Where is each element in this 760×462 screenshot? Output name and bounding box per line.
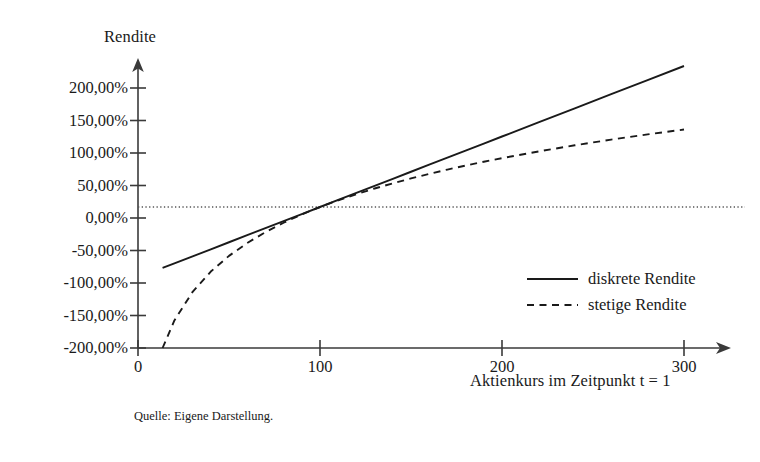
series-diskrete-rendite [163,66,684,268]
x-tick-label: 200 [472,359,532,376]
y-axis [130,58,146,348]
y-tick-label: 150,00% [8,113,128,130]
legend-item-diskrete-rendite: diskrete Rendite [588,271,696,288]
x-tick-label: 100 [290,359,350,376]
x-axis [138,340,731,356]
y-tick-label: -50,00% [8,243,128,260]
y-tick-label: -200,00% [8,340,128,357]
x-tick-label: 0 [108,359,168,376]
series-stetige-rendite [163,130,684,348]
y-axis-title: Rendite [104,27,156,47]
chart-page: Rendite Aktienkurs im Zeitpunkt t = 1 20… [0,0,760,462]
y-tick-label: -150,00% [8,308,128,325]
y-tick-label: 50,00% [8,178,128,195]
y-tick-label: -100,00% [8,275,128,292]
chart-canvas [0,0,760,462]
y-tick-label: 200,00% [8,80,128,97]
y-tick-label: 0,00% [8,210,128,227]
legend-item-stetige-rendite: stetige Rendite [588,297,687,314]
y-tick-label: 100,00% [8,145,128,162]
source-caption: Quelle: Eigene Darstellung. [134,409,273,423]
x-tick-label: 300 [654,359,714,376]
